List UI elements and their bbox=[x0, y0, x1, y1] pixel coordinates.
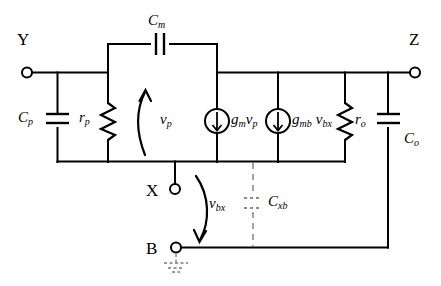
gm-v-subscript: p bbox=[252, 118, 257, 129]
schematic-canvas bbox=[0, 0, 441, 286]
vp-subscript: p bbox=[167, 118, 172, 129]
component-label-cm: Cm bbox=[148, 13, 165, 28]
terminal-label-z: Z bbox=[409, 31, 419, 48]
capacitor-cxb-dashed bbox=[244, 163, 262, 246]
voltage-arrow-vbx bbox=[194, 176, 207, 242]
wire-rp-branch bbox=[101, 73, 115, 163]
component-label-gmvp: gmvp bbox=[231, 112, 257, 127]
current-source-gmbvbx bbox=[266, 109, 290, 133]
capacitor-co-plates bbox=[377, 114, 400, 123]
cp-symbol: C bbox=[18, 109, 28, 125]
capacitor-cm-plates bbox=[156, 33, 164, 55]
co-symbol: C bbox=[404, 130, 414, 146]
cxb-subscript: xb bbox=[278, 200, 287, 211]
terminal-label-x: X bbox=[146, 182, 158, 199]
rp-symbol: r bbox=[79, 109, 85, 125]
node-terminal-y[interactable] bbox=[22, 68, 32, 78]
ro-subscript: o bbox=[361, 118, 366, 129]
component-label-gmbvbx: gmbvbx bbox=[292, 112, 332, 127]
voltage-label-vbx: vbx bbox=[209, 196, 225, 211]
node-terminal-x[interactable] bbox=[170, 184, 180, 194]
component-label-cxb: Cxb bbox=[268, 194, 287, 209]
terminal-label-y: Y bbox=[17, 31, 29, 48]
vbx-symbol: v bbox=[209, 195, 216, 211]
gmb-subscript: mb bbox=[300, 118, 312, 129]
gmb-v-subscript: bx bbox=[322, 118, 331, 129]
component-label-co: Co bbox=[404, 131, 419, 146]
gm-subscript: m bbox=[239, 118, 246, 129]
vbx-subscript: bx bbox=[216, 202, 225, 213]
ground-icon bbox=[164, 254, 188, 272]
cm-symbol: C bbox=[148, 12, 158, 28]
voltage-arrow-vp bbox=[138, 90, 151, 155]
wire-ro-branch bbox=[338, 73, 352, 163]
cp-subscript: p bbox=[28, 116, 33, 127]
cxb-symbol: C bbox=[268, 193, 278, 209]
wire-cm-branch bbox=[108, 44, 217, 73]
current-source-gmvp bbox=[205, 109, 229, 133]
ro-symbol: r bbox=[355, 111, 361, 127]
circuit-diagram: Y Z X B Cp rp Cm vp gmvp gmbvbx ro Co vb… bbox=[0, 0, 441, 286]
node-terminal-z[interactable] bbox=[410, 68, 420, 78]
gm-symbol: g bbox=[231, 111, 239, 127]
terminal-label-b: B bbox=[146, 240, 157, 257]
component-label-ro: ro bbox=[355, 112, 366, 127]
vp-symbol: v bbox=[160, 111, 167, 127]
co-subscript: o bbox=[414, 137, 419, 148]
voltage-label-vp: vp bbox=[160, 112, 172, 127]
cm-subscript: m bbox=[158, 19, 165, 30]
rp-subscript: p bbox=[85, 116, 90, 127]
component-label-rp: rp bbox=[79, 110, 90, 125]
component-label-cp: Cp bbox=[18, 110, 33, 125]
gmb-symbol: g bbox=[292, 111, 300, 127]
capacitor-cp-plates bbox=[46, 114, 69, 123]
node-terminal-b[interactable] bbox=[171, 243, 181, 253]
